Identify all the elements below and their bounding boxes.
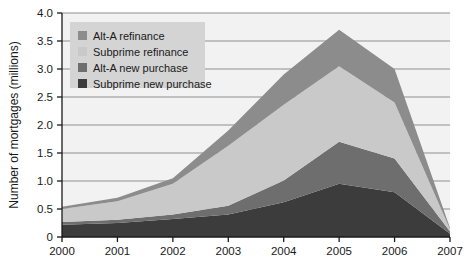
legend-label: Alt-A new purchase [93,62,188,74]
y-tick-label: 0.5 [37,203,53,215]
legend-label: Alt-A refinance [93,30,165,42]
chart-legend: Alt-A refinanceSubprime refinanceAlt-A n… [70,22,212,90]
x-tick-label: 2003 [215,245,241,257]
y-tick-label: 2.5 [37,91,53,103]
x-tick-label: 2002 [160,245,186,257]
x-tick-label: 2005 [326,245,352,257]
y-tick-label: 3.5 [37,35,53,47]
legend-swatch [78,79,87,88]
legend-label: Subprime new purchase [93,78,212,90]
y-tick-label: 3.0 [37,63,53,75]
x-tick-label: 2004 [271,245,297,257]
legend-label: Subprime refinance [93,46,188,58]
y-tick-label: 2.0 [37,119,53,131]
y-tick-label: 4.0 [37,7,53,19]
y-axis-ticks: 00.51.01.52.02.53.03.54.0 [37,7,62,243]
x-tick-label: 2006 [382,245,408,257]
y-tick-label: 1.5 [37,147,53,159]
x-tick-label: 2007 [437,245,463,257]
legend-swatch [78,31,87,40]
legend-swatch [78,47,87,56]
y-tick-label: 1.0 [37,175,53,187]
chart-canvas: 00.51.01.52.02.53.03.54.0 20002001200220… [0,0,473,266]
y-tick-label: 0 [47,231,53,243]
legend-swatch [78,63,87,72]
y-axis-label: Number of mortgages (millions) [7,41,21,208]
x-tick-label: 2001 [105,245,131,257]
mortgage-origination-area-chart: 00.51.01.52.02.53.03.54.0 20002001200220… [0,0,473,266]
x-tick-label: 2000 [49,245,75,257]
x-axis-ticks: 20002001200220032004200520062007 [49,237,463,257]
